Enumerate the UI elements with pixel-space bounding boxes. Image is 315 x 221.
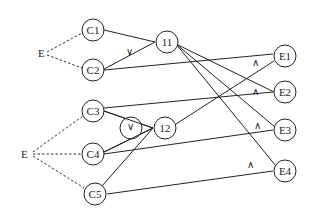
or-symbol-12: ∨ [127,121,134,132]
node-c3: C3 [82,100,104,122]
node-12: 12 [154,117,176,139]
node-c5: C5 [84,183,106,205]
node-label: E4 [279,165,292,177]
node-e1: E1 [274,45,296,67]
node-11: 11 [156,31,178,53]
root-label-e-bottom: E [21,148,28,160]
node-label: 11 [162,36,173,48]
node-c2: C2 [82,59,104,81]
node-c4: C4 [82,143,104,165]
dashed-edge-e-c5 [33,156,84,188]
node-label: C5 [89,188,102,200]
root-label-e-top: E [38,47,45,59]
and-symbol-e2: ∧ [252,86,259,97]
node-label: C1 [87,24,100,36]
node-e2: E2 [274,81,296,103]
edge-c3-e2 [104,92,273,108]
and-symbol-e3: ∧ [254,120,261,131]
edge-c1-11 [104,30,155,42]
dashed-edge-e-c1 [47,33,82,52]
or-symbol-11: ∨ [126,46,133,57]
edge-c5-e4 [107,171,273,194]
node-label: C3 [87,105,100,117]
dashed-edge-e-c2 [47,55,82,68]
node-label: E1 [279,50,291,62]
node-c1: C1 [82,19,104,41]
edge-11-e4 [176,44,276,166]
operators: ∨ ∨ ∧ ∧ ∧ ∧ [104,46,261,170]
node-label: C2 [87,64,100,76]
and-symbol-e1: ∧ [252,57,259,68]
node-e3: E3 [274,119,296,141]
logic-diagram: E E ∨ ∨ ∧ ∧ ∧ ∧ C1 C2 C3 C4 C5 11 12 [0,0,315,221]
dashed-edge-e-c3 [33,116,83,152]
node-label: E2 [279,86,291,98]
and-symbol-e4: ∧ [247,159,254,170]
node-e4: E4 [274,160,296,182]
node-label: E3 [279,124,292,136]
node-label: 12 [160,122,171,134]
node-label: C4 [87,148,100,160]
